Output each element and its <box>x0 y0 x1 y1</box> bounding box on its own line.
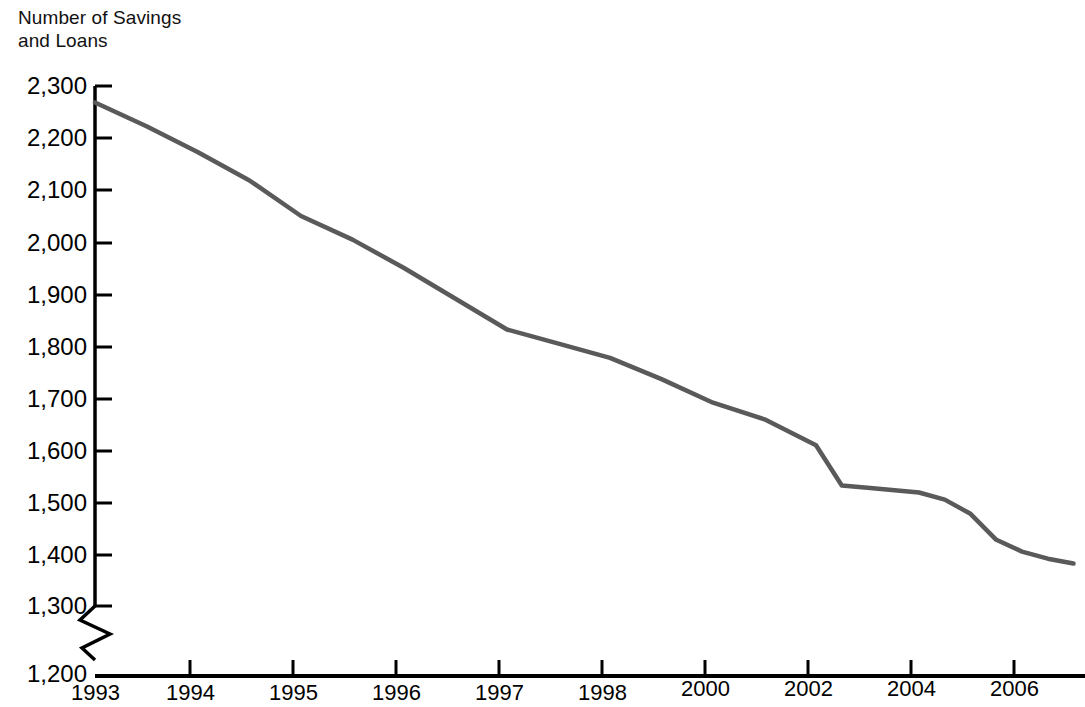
x-tick-label: 1994 <box>143 682 238 704</box>
chart-container: Number of Savingsand Loans <box>0 0 1085 707</box>
x-tick-label: 2002 <box>761 678 856 700</box>
y-tick-label: 1,900 <box>0 283 87 307</box>
x-tick-label: 1995 <box>246 682 341 704</box>
x-tick-label: 1997 <box>452 682 547 704</box>
data-series-line <box>95 103 1074 564</box>
y-tick-label: 1,800 <box>0 335 87 359</box>
y-tick-label: 2,200 <box>0 126 87 150</box>
x-axis-ticks <box>190 660 1014 676</box>
y-tick-label: 1,400 <box>0 543 87 567</box>
x-tick-label: 2006 <box>967 678 1062 700</box>
y-tick-label: 2,100 <box>0 178 87 202</box>
y-tick-label: 1,700 <box>0 387 87 411</box>
x-tick-label: 1996 <box>349 682 444 704</box>
x-tick-label: 2004 <box>864 678 959 700</box>
y-axis-ticks <box>95 86 112 606</box>
x-tick-label: 2000 <box>658 678 753 700</box>
y-tick-label: 2,000 <box>0 231 87 255</box>
x-tick-label: 1998 <box>555 682 650 704</box>
y-tick-label: 2,300 <box>0 74 87 98</box>
line-chart-plot <box>0 0 1085 707</box>
y-tick-label: 1,600 <box>0 439 87 463</box>
y-tick-label: 1,300 <box>0 594 87 618</box>
x-tick-label: 1993 <box>48 682 143 704</box>
y-tick-label: 1,500 <box>0 491 87 515</box>
